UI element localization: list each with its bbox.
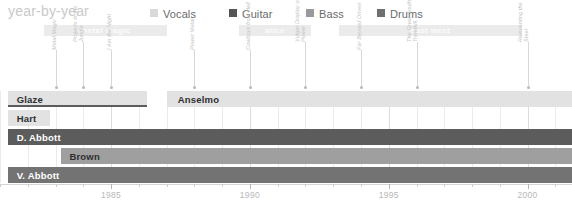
album-title: The Great Southern Trendkill bbox=[406, 0, 418, 42]
x-axis-label: 1985 bbox=[101, 190, 121, 200]
x-tick-minor bbox=[194, 184, 195, 187]
x-tick-major bbox=[389, 184, 390, 189]
x-axis-rule bbox=[0, 184, 572, 185]
x-tick-minor bbox=[361, 184, 362, 187]
x-tick-minor bbox=[472, 184, 473, 187]
lane-hart: Hart bbox=[0, 110, 572, 126]
album-marker[interactable]: The Great Southern Trendkill bbox=[417, 42, 418, 88]
album-title: Far Beyond Driven bbox=[356, 4, 362, 50]
lane-v-abbott: V. Abbott bbox=[0, 167, 572, 183]
album-title: Cowboys from Hell bbox=[245, 4, 251, 50]
album-title: I Am the Night bbox=[106, 4, 112, 50]
row-label-brown: Brown bbox=[69, 151, 100, 162]
x-axis-label: 1995 bbox=[379, 190, 399, 200]
x-tick-minor bbox=[83, 184, 84, 187]
x-axis-label: 1990 bbox=[240, 190, 260, 200]
album-dot-icon bbox=[110, 86, 113, 89]
album-dot-icon bbox=[193, 86, 196, 89]
album-dot-icon bbox=[416, 86, 419, 89]
legend-item-bass[interactable]: Bass bbox=[306, 4, 344, 18]
album-title: Reinventing the Steel bbox=[517, 0, 529, 42]
x-tick-minor bbox=[444, 184, 445, 187]
bar-bass-brown[interactable] bbox=[61, 148, 572, 164]
album-title: Metal Magic bbox=[51, 4, 57, 50]
timeline-plot: GlazeAnselmoHartD. AbbottBrownV. Abbott bbox=[0, 91, 572, 183]
lane-d-abbott: D. Abbott bbox=[0, 129, 572, 145]
x-tick-minor bbox=[278, 184, 279, 187]
x-tick-minor bbox=[500, 184, 501, 187]
album-marker[interactable]: Projects in the Jungle bbox=[83, 42, 84, 88]
album-dot-icon bbox=[249, 86, 252, 89]
x-tick-minor bbox=[167, 184, 168, 187]
row-label-d-abbott: D. Abbott bbox=[17, 132, 61, 143]
bar-vocals-anselmo[interactable] bbox=[167, 91, 572, 107]
legend-swatch-icon bbox=[229, 9, 237, 17]
album-stem bbox=[56, 50, 57, 88]
album-marker[interactable]: Metal Magic bbox=[56, 50, 57, 88]
bar-drums-v-abbott[interactable] bbox=[8, 167, 572, 183]
album-marker[interactable]: Cowboys from Hell bbox=[250, 50, 251, 88]
album-marker[interactable]: Reinventing the Steel bbox=[528, 42, 529, 88]
album-marker[interactable]: Far Beyond Driven bbox=[361, 50, 362, 88]
album-stem bbox=[83, 42, 84, 88]
x-tick-major bbox=[528, 184, 529, 189]
album-title: Power Metal bbox=[189, 4, 195, 50]
bar-guitar-underline[interactable] bbox=[8, 105, 147, 107]
era-band-east-west: east west bbox=[339, 25, 522, 36]
legend-swatch-icon bbox=[306, 9, 314, 17]
row-label-hart: Hart bbox=[17, 113, 37, 124]
lane-brown: Brown bbox=[0, 148, 572, 164]
album-marker[interactable]: Vulgar Display of Power bbox=[305, 42, 306, 88]
album-dot-icon bbox=[304, 86, 307, 89]
album-stem bbox=[417, 42, 418, 88]
x-tick-minor bbox=[139, 184, 140, 187]
x-axis-label: 2000 bbox=[518, 190, 538, 200]
album-stem bbox=[111, 50, 112, 88]
x-tick-major bbox=[250, 184, 251, 189]
x-tick-minor bbox=[417, 184, 418, 187]
album-marker[interactable]: I Am the Night bbox=[111, 50, 112, 88]
x-tick-minor bbox=[56, 184, 57, 187]
lane-glaze: GlazeAnselmo bbox=[0, 91, 572, 107]
row-label-glaze: Glaze bbox=[17, 94, 43, 105]
album-stem bbox=[305, 42, 306, 88]
bar-guitar-d-abbott[interactable] bbox=[8, 129, 572, 145]
album-title: Projects in the Jungle bbox=[72, 0, 84, 42]
album-stem bbox=[194, 50, 195, 88]
album-dot-icon bbox=[360, 86, 363, 89]
x-tick-minor bbox=[305, 184, 306, 187]
x-tick-major bbox=[111, 184, 112, 189]
x-tick-minor bbox=[333, 184, 334, 187]
x-tick-minor bbox=[555, 184, 556, 187]
row-label-anselmo: Anselmo bbox=[178, 94, 220, 105]
x-tick-minor bbox=[28, 184, 29, 187]
legend-swatch-icon bbox=[150, 9, 158, 17]
album-dot-icon bbox=[527, 86, 530, 89]
x-tick-minor bbox=[0, 184, 1, 187]
legend-swatch-icon bbox=[377, 9, 385, 17]
legend: year-by-year VocalsGuitarBassDrums bbox=[0, 0, 572, 22]
album-marker[interactable]: Power Metal bbox=[194, 50, 195, 88]
x-tick-minor bbox=[222, 184, 223, 187]
album-stem bbox=[528, 42, 529, 88]
album-title: Vulgar Display of Power bbox=[294, 0, 306, 42]
row-label-v-abbott: V. Abbott bbox=[17, 170, 60, 181]
album-dot-icon bbox=[82, 86, 85, 89]
album-stem bbox=[361, 50, 362, 88]
album-dot-icon bbox=[55, 86, 58, 89]
album-stem bbox=[250, 50, 251, 88]
legend-label: Bass bbox=[319, 8, 344, 20]
